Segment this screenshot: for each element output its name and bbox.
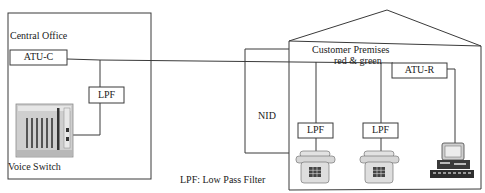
lpf1-label: LPF (298, 125, 333, 135)
computer-icon (430, 143, 474, 178)
central-office-title: Central Office (10, 31, 67, 41)
atu-c-label: ATU-C (10, 52, 67, 62)
atu-r-label: ATU-R (392, 65, 447, 75)
adsl-diagram: Central Office ATU-C LPF Voice Switch NI… (0, 0, 485, 193)
diagram-lines (0, 0, 485, 193)
voice-switch-icon (16, 104, 73, 157)
co-lpf-label: LPF (89, 90, 124, 100)
co-lpf-to-switch (73, 103, 100, 135)
lpf2-label: LPF (363, 125, 398, 135)
telephone-icon (360, 151, 399, 183)
customer-premises-title: Customer Premises (312, 45, 390, 55)
nid-label: NID (245, 111, 289, 121)
telephone-icon (296, 151, 335, 183)
voice-switch-label: Voice Switch (8, 162, 61, 172)
wiring-label: red & green (334, 56, 382, 66)
atu-r-to-computer (447, 69, 455, 143)
legend-text: LPF: Low Pass Filter (180, 175, 265, 185)
nid-box (245, 49, 289, 153)
